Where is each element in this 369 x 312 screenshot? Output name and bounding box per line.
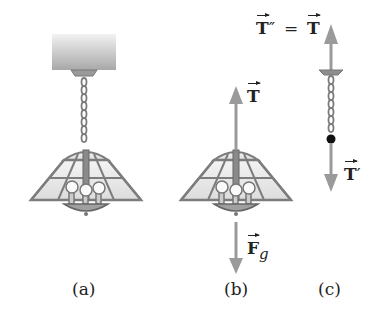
physics-diagram (0, 0, 369, 312)
panel-label-b: (b) (224, 279, 248, 299)
label-t-b: T (247, 86, 260, 106)
tension-double-prime-arrow (324, 24, 338, 44)
panel-label-a: (a) (72, 279, 95, 299)
panel-label-c: (c) (318, 279, 341, 299)
point-dot (327, 135, 336, 144)
gravity-arrow-down (229, 258, 243, 274)
label-t-prime: T′ (344, 164, 361, 184)
ceiling-block (52, 34, 116, 70)
tension-arrow-up (229, 86, 243, 104)
chain-a (82, 78, 87, 142)
panel-b-free-body (181, 86, 291, 274)
chain-c (329, 76, 334, 132)
panel-c-chain (319, 24, 343, 192)
tension-prime-arrow (324, 174, 338, 192)
label-t-double-prime-equals-t: T″ = T (256, 18, 320, 38)
label-fg: Fg (247, 238, 269, 258)
panel-a-lamp (31, 34, 141, 216)
